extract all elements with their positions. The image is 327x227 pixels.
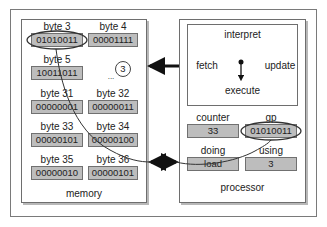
byte-to-gp-curve xyxy=(56,49,151,162)
load-to-gp-curve xyxy=(176,140,271,164)
diagram-overlay xyxy=(0,0,327,227)
cycle-arrow-icon xyxy=(239,60,244,79)
byte3-highlight-ellipse xyxy=(27,31,87,49)
gp-highlight-ellipse xyxy=(241,122,301,140)
